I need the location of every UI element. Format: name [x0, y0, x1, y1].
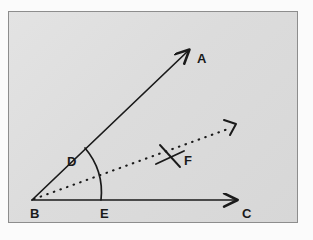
point-label-A: A — [197, 51, 207, 66]
cross-mark-icon — [156, 145, 184, 167]
angle-arc — [85, 148, 101, 200]
ray-BF-arrowhead-icon — [224, 120, 236, 135]
scanned-page: this pag have an ang be state angle line — [0, 0, 313, 240]
point-label-F: F — [184, 153, 192, 168]
ray-BA — [32, 50, 189, 200]
geometry-figure: A B C D E F — [9, 12, 297, 222]
point-label-E: E — [100, 206, 109, 221]
point-label-C: C — [242, 206, 252, 221]
ray-BF-dotted — [34, 129, 228, 199]
point-label-B: B — [30, 206, 39, 221]
figure-panel: A B C D E F — [8, 11, 298, 223]
point-label-D: D — [67, 154, 76, 169]
